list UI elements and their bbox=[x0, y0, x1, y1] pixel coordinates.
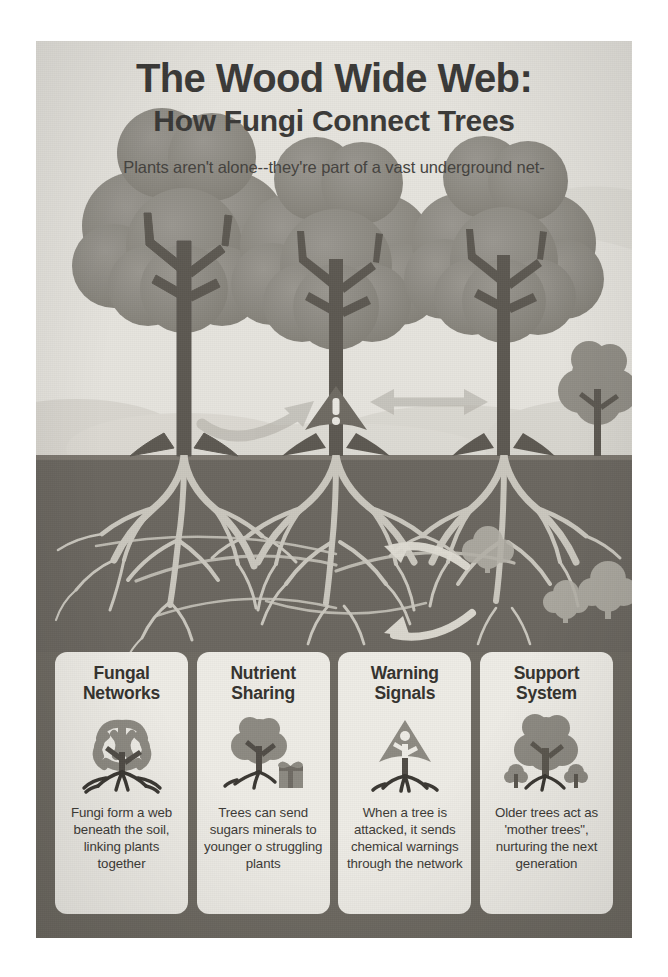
card-title: Nutrient Sharing bbox=[230, 664, 295, 704]
card-body: Trees can send sugars minerals to younge… bbox=[203, 804, 324, 872]
page-tagline: Plants aren't alone--they're part of a v… bbox=[36, 138, 632, 178]
card-title: Support System bbox=[514, 664, 580, 704]
card-title-line1: Fungal bbox=[93, 663, 149, 683]
infographic-poster: The Wood Wide Web: How Fungi Connect Tre… bbox=[36, 41, 632, 938]
card-body: Older trees act as 'mother trees", nurtu… bbox=[486, 804, 607, 872]
card-title-line2: System bbox=[516, 683, 577, 703]
card-nutrient-sharing[interactable]: Nutrient Sharing bbox=[197, 652, 330, 914]
network-tree-icon bbox=[76, 712, 168, 796]
warning-dot bbox=[400, 731, 410, 741]
exclamation-dot bbox=[332, 417, 340, 425]
card-warning-signals[interactable]: Warning Signals bbox=[338, 652, 471, 914]
mother-tree-icon bbox=[500, 712, 592, 796]
card-title-line2: Networks bbox=[83, 683, 160, 703]
concept-cards: Fungal Networks bbox=[36, 652, 632, 938]
poster-header: The Wood Wide Web: How Fungi Connect Tre… bbox=[36, 41, 632, 178]
card-fungal-networks[interactable]: Fungal Networks bbox=[55, 652, 188, 914]
card-body: Fungi form a web beneath the soil, linki… bbox=[61, 804, 182, 872]
page-subtitle: How Fungi Connect Trees bbox=[36, 99, 632, 137]
exclamation-bar bbox=[333, 398, 340, 415]
warning-tree-icon bbox=[359, 712, 451, 796]
card-title-line1: Warning bbox=[371, 663, 439, 683]
page-title: The Wood Wide Web: bbox=[36, 41, 632, 99]
card-title: Fungal Networks bbox=[83, 664, 160, 704]
tree-gift-icon bbox=[217, 712, 309, 796]
card-title-line1: Support bbox=[514, 663, 580, 683]
card-title: Warning Signals bbox=[371, 664, 439, 704]
card-title-line2: Sharing bbox=[231, 683, 295, 703]
card-title-line1: Nutrient bbox=[230, 663, 295, 683]
sapling-right bbox=[564, 764, 588, 788]
gift-box bbox=[278, 761, 303, 788]
card-title-line2: Signals bbox=[374, 683, 435, 703]
sapling-left bbox=[504, 764, 528, 788]
card-body: When a tree is attacked, it sends chemic… bbox=[344, 804, 465, 872]
card-support-system[interactable]: Support System bbox=[480, 652, 613, 914]
